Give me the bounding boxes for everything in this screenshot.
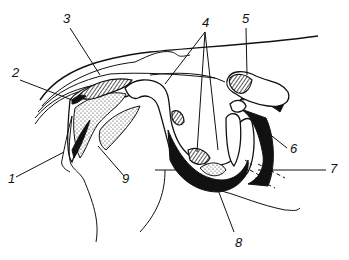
- label-3: 3: [63, 11, 71, 26]
- label-8: 8: [235, 235, 243, 250]
- left-organ-group: [62, 79, 140, 242]
- label-7: 7: [330, 161, 338, 176]
- label-5: 5: [242, 11, 250, 26]
- label-2: 2: [11, 65, 20, 80]
- label-6: 6: [290, 141, 298, 156]
- anatomical-diagram: 1 2 3 4 5 6 7 8 9: [0, 0, 349, 260]
- label-9: 9: [122, 171, 129, 186]
- label-1: 1: [8, 171, 15, 186]
- label-4: 4: [202, 15, 209, 30]
